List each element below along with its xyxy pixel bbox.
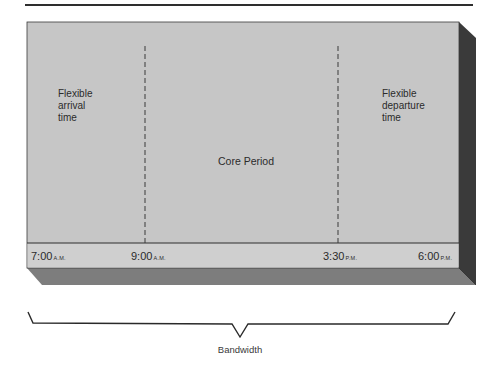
time-value: 6:00 (418, 250, 439, 262)
box-side-face (459, 22, 476, 285)
bandwidth-label: Bandwidth (0, 344, 480, 355)
time-suffix: A.M. (53, 255, 66, 261)
time-value: 3:30 (323, 250, 344, 262)
departure-label-line: time (382, 112, 425, 124)
departure-label: Flexible departure time (382, 88, 425, 124)
time-suffix: P.M. (440, 255, 452, 261)
time-suffix: A.M. (153, 255, 166, 261)
time-value: 9:00 (131, 250, 152, 262)
departure-label-line: departure (382, 100, 425, 112)
arrival-label-line: arrival (58, 100, 92, 112)
arrival-label-line: time (58, 112, 92, 124)
core-period-label: Core Period (218, 155, 274, 167)
time-330pm: 3:30P.M. (323, 250, 357, 262)
arrival-label: Flexible arrival time (58, 88, 92, 124)
departure-label-line: Flexible (382, 88, 425, 100)
time-value: 7:00 (31, 250, 52, 262)
flextime-box (0, 0, 496, 374)
timeline-strip (28, 243, 459, 268)
time-6pm: 6:00P.M. (418, 250, 452, 262)
arrival-label-line: Flexible (58, 88, 92, 100)
time-7am: 7:00A.M. (31, 250, 66, 262)
time-9am: 9:00A.M. (131, 250, 166, 262)
time-suffix: P.M. (345, 255, 357, 261)
box-front-face (27, 22, 459, 268)
bandwidth-brace (28, 312, 455, 337)
box-bottom-face (27, 268, 476, 285)
